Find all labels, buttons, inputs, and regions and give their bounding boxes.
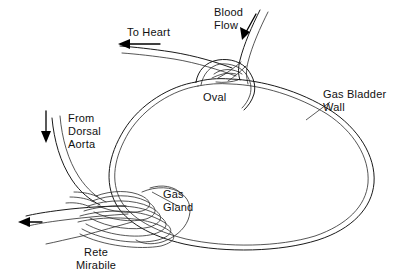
rete-outflow-vessel bbox=[26, 206, 132, 244]
label-rete-mirabile-line2: Mirabile bbox=[76, 259, 116, 272]
label-rete-mirabile-line1: Rete bbox=[84, 246, 108, 259]
gas-bladder-diagram: To Heart Blood Flow Oval Gas Bladder Wal… bbox=[0, 0, 400, 275]
from-dorsal-aorta-arrow bbox=[41, 111, 51, 143]
rete-outflow-arrow bbox=[18, 217, 42, 227]
vein-to-heart bbox=[120, 46, 236, 78]
label-from-dorsal-aorta-line3: Aorta bbox=[68, 138, 95, 151]
label-gas-bladder-wall-line1: Gas Bladder bbox=[323, 88, 386, 101]
label-gas-gland-line1: Gas bbox=[163, 188, 184, 201]
label-oval: Oval bbox=[203, 91, 226, 104]
label-to-heart: To Heart bbox=[127, 26, 170, 39]
label-blood-flow-line2: Flow bbox=[214, 19, 238, 32]
label-blood-flow-line1: Blood bbox=[214, 6, 243, 19]
label-from-dorsal-aorta-line1: From bbox=[68, 112, 94, 125]
label-gas-bladder-wall-line2: Wall bbox=[323, 101, 345, 114]
diagram-canvas bbox=[0, 0, 400, 275]
label-from-dorsal-aorta-line2: Dorsal bbox=[68, 125, 101, 138]
rete-mirabile bbox=[66, 192, 174, 248]
label-gas-gland-line2: Gland bbox=[163, 201, 193, 214]
